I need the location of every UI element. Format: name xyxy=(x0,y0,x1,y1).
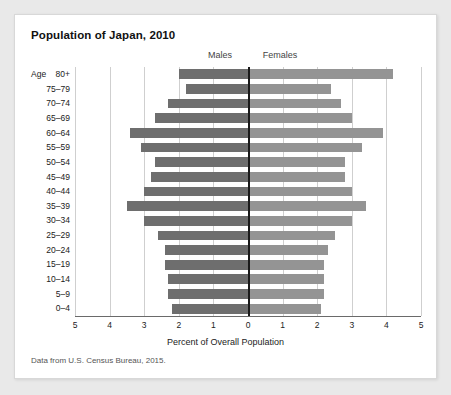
age-group-label: 30–34 xyxy=(18,213,70,228)
x-axis-tick-label: 3 xyxy=(132,320,156,330)
legend-label-females: Females xyxy=(250,50,310,60)
x-axis-tick-label: 1 xyxy=(201,320,225,330)
bar-female xyxy=(248,99,341,109)
plot-area xyxy=(75,67,421,316)
center-axis-line xyxy=(248,67,250,316)
bar-female xyxy=(248,304,321,314)
bar-female xyxy=(248,113,352,123)
chart-card: Population of Japan, 2010 Males Females … xyxy=(14,14,437,379)
bar-male xyxy=(155,157,248,167)
bar-male xyxy=(141,143,248,153)
bar-male xyxy=(127,201,248,211)
x-axis-tick-label: 3 xyxy=(340,320,364,330)
bar-male xyxy=(168,99,248,109)
age-group-label: 65–69 xyxy=(18,111,70,126)
x-axis-tick-label: 5 xyxy=(63,320,87,330)
bar-female xyxy=(248,289,324,299)
bar-male xyxy=(155,113,248,123)
bar-female xyxy=(248,157,345,167)
bar-male xyxy=(172,304,248,314)
x-axis-line xyxy=(75,316,421,317)
bar-female xyxy=(248,143,362,153)
x-axis-tick-label: 1 xyxy=(271,320,295,330)
x-axis-tick-label: 0 xyxy=(236,320,260,330)
age-group-label: 40–44 xyxy=(18,184,70,199)
x-axis-tick-label: 5 xyxy=(409,320,433,330)
age-group-label: 80+ xyxy=(18,67,70,82)
bar-female xyxy=(248,274,324,284)
age-group-label: 35–39 xyxy=(18,199,70,214)
age-group-label: 75–79 xyxy=(18,82,70,97)
bar-female xyxy=(248,201,366,211)
age-group-label: 45–49 xyxy=(18,170,70,185)
bar-female xyxy=(248,260,324,270)
age-group-label: 50–54 xyxy=(18,155,70,170)
bar-female xyxy=(248,69,393,79)
bar-male xyxy=(144,187,248,197)
age-group-label: 10–14 xyxy=(18,272,70,287)
x-axis-tick-label: 4 xyxy=(98,320,122,330)
x-axis-tick-label: 2 xyxy=(167,320,191,330)
source-note: Data from U.S. Census Bureau, 2015. xyxy=(31,356,166,365)
age-group-label: 60–64 xyxy=(18,126,70,141)
gridline xyxy=(421,67,422,316)
age-group-label: 55–59 xyxy=(18,140,70,155)
bar-male xyxy=(165,260,248,270)
bar-male xyxy=(130,128,248,138)
bar-male xyxy=(168,274,248,284)
bar-female xyxy=(248,172,345,182)
bar-female xyxy=(248,84,331,94)
bar-male xyxy=(158,231,248,241)
age-group-label: 0–4 xyxy=(18,301,70,316)
bar-male xyxy=(151,172,248,182)
bar-female xyxy=(248,231,335,241)
legend-label-males: Males xyxy=(190,50,250,60)
x-axis-tick-label: 4 xyxy=(374,320,398,330)
age-group-label: 20–24 xyxy=(18,243,70,258)
bar-female xyxy=(248,187,352,197)
bar-female xyxy=(248,245,328,255)
bar-male xyxy=(165,245,248,255)
age-group-label: 25–29 xyxy=(18,228,70,243)
age-group-label: 70–74 xyxy=(18,96,70,111)
page-title: Population of Japan, 2010 xyxy=(31,29,175,41)
bar-female xyxy=(248,128,383,138)
bar-male xyxy=(186,84,248,94)
bar-female xyxy=(248,216,352,226)
age-group-label: 5–9 xyxy=(18,287,70,302)
bar-male xyxy=(168,289,248,299)
bar-male xyxy=(144,216,248,226)
bar-male xyxy=(179,69,248,79)
x-axis-tick-label: 2 xyxy=(305,320,329,330)
x-axis-title: Percent of Overall Population xyxy=(15,337,436,347)
age-group-label: 15–19 xyxy=(18,257,70,272)
